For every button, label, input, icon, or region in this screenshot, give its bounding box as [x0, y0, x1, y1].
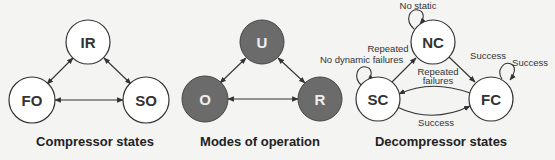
state-diagrams: IR FO SO Compressor states U O R Modes o…	[0, 0, 555, 160]
node-u: U	[240, 20, 284, 64]
node-sc: SC	[356, 77, 400, 121]
node-nc: NC	[411, 20, 455, 64]
compressor-states-title: Compressor states	[36, 134, 154, 149]
node-fo-label: FO	[22, 92, 43, 109]
node-fc-label: FC	[481, 91, 501, 108]
node-ir-label: IR	[81, 34, 96, 51]
node-nc-label: NC	[422, 34, 444, 51]
decompressor-states-title: Decompressor states	[375, 134, 507, 149]
edge-ir-so	[104, 58, 131, 84]
label-no-static: No static	[400, 0, 437, 11]
node-ir: IR	[66, 20, 110, 64]
node-o-label: O	[199, 91, 211, 108]
label-success-nc-fc: Success	[470, 50, 506, 61]
node-u-label: U	[257, 34, 268, 51]
label-success-sc-fc: Success	[418, 117, 454, 128]
label-success-fc-self: Success	[512, 57, 548, 68]
node-r: R	[298, 77, 342, 121]
node-so: SO	[123, 77, 169, 123]
node-fc: FC	[469, 77, 513, 121]
label-repeated-failures-2b: failures	[423, 75, 454, 86]
node-o: O	[182, 76, 228, 122]
node-so-label: SO	[135, 92, 157, 109]
compressor-states-diagram: IR FO SO Compressor states	[9, 20, 169, 149]
node-r-label: R	[315, 91, 326, 108]
edge-ir-fo	[47, 58, 73, 84]
modes-of-operation-diagram: U O R Modes of operation	[182, 20, 342, 149]
label-repeated-failures-1a: Repeated	[367, 43, 408, 54]
modes-of-operation-title: Modes of operation	[200, 134, 320, 149]
decompressor-states-diagram: NC SC FC No static No dynamic Repeated f…	[320, 0, 548, 149]
node-sc-label: SC	[368, 91, 389, 108]
edge-u-r	[278, 58, 305, 83]
edge-sc-fc	[397, 106, 470, 115]
label-no-dynamic: No dynamic	[320, 54, 370, 65]
edge-u-o	[220, 58, 246, 83]
node-fo: FO	[9, 77, 55, 123]
edge-fc-sc	[399, 86, 470, 94]
label-repeated-failures-1b: failures	[373, 54, 404, 65]
